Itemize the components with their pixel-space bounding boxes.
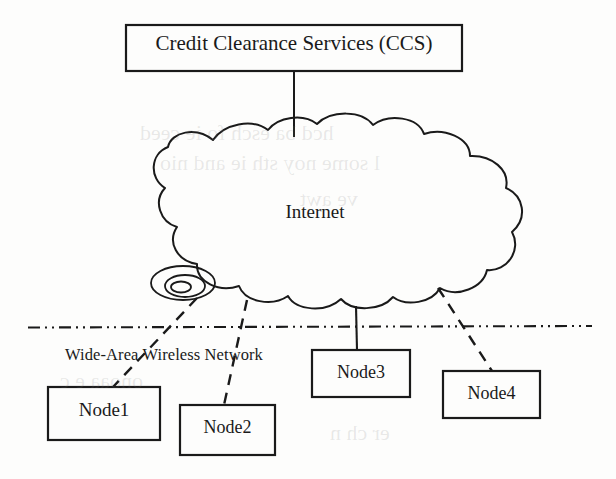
internet-to-node4-link — [438, 288, 492, 371]
page-bleedthrough-artifact: l some noy sth ie and nio — [160, 150, 380, 176]
base-station-inner-ellipse — [171, 282, 191, 293]
page-bleedthrough-artifact: er ch n — [330, 420, 390, 446]
diagram-canvas: hcd ba esch fo ie ceed l some noy sth ie… — [0, 0, 616, 479]
node1-label: Node1 — [48, 400, 160, 419]
node2-label: Node2 — [180, 418, 275, 436]
node3-label: Node3 — [312, 363, 410, 381]
internet-cloud-label: Internet — [255, 202, 375, 221]
wide-area-wireless-network-label: Wide-Area Wireless Network — [55, 347, 273, 364]
page-bleedthrough-artifact: onoaa e c — [60, 368, 143, 394]
node4-label: Node4 — [443, 384, 540, 402]
page-bleedthrough-artifact: hcd ba esch fo ie ceed — [140, 120, 334, 146]
base-station-outer-ellipse — [151, 266, 215, 300]
internet-to-node3-link — [356, 306, 357, 350]
wide-area-wireless-boundary — [28, 326, 592, 328]
ccs-box-label: Credit Clearance Services (CCS) — [126, 33, 462, 54]
